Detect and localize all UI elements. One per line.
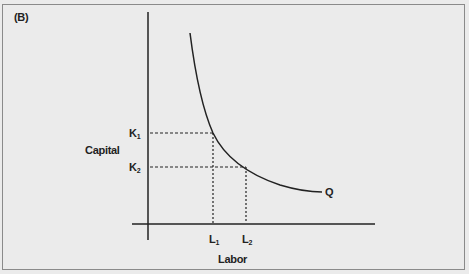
tick-k2: K2 — [129, 161, 140, 174]
tick-l1: L1 — [209, 233, 219, 246]
isoquant-curve — [190, 33, 322, 192]
isoquant-diagram — [0, 0, 469, 274]
x-axis-label: Labor — [218, 253, 247, 265]
curve-label-q: Q — [325, 186, 333, 198]
tick-l2: L2 — [242, 233, 252, 246]
y-axis-label: Capital — [85, 144, 120, 156]
tick-k1: K1 — [129, 127, 140, 140]
